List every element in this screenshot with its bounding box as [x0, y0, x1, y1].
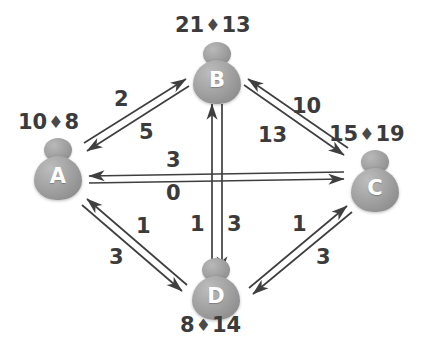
- edge-b-to-a: [87, 86, 189, 151]
- edge-label-cd-upper: 1: [292, 212, 307, 236]
- node-d-label: D: [190, 284, 242, 308]
- edge-label-bc-upper: 10: [292, 94, 321, 118]
- node-c-value-left: 15: [329, 122, 358, 146]
- node-b-separator-icon: ♦: [204, 15, 221, 35]
- edge-label-bc-lower: 13: [258, 123, 287, 147]
- node-c-value-right: 19: [375, 122, 404, 146]
- node-b-values: 21♦13: [175, 13, 251, 37]
- edge-a-to-b: [84, 79, 186, 143]
- node-a-separator-icon: ♦: [47, 112, 64, 132]
- node-a-values: 10♦8: [18, 110, 79, 134]
- node-c-values: 15♦19: [329, 122, 405, 146]
- node-a-value-right: 8: [64, 110, 79, 134]
- edge-a-to-d: [82, 205, 182, 291]
- edge-d-to-a: [87, 199, 187, 285]
- node-b-label: B: [191, 68, 243, 92]
- edge-a-to-c: [89, 179, 344, 183]
- node-d[interactable]: D: [190, 258, 242, 320]
- node-b-value-right: 13: [221, 13, 250, 37]
- edge-c-to-a: [89, 172, 344, 176]
- node-a[interactable]: A: [32, 138, 84, 200]
- node-b-value-left: 21: [175, 13, 204, 37]
- edge-label-cd-lower: 3: [316, 245, 331, 269]
- node-c[interactable]: C: [349, 150, 401, 212]
- edge-label-ab-upper: 2: [114, 87, 129, 111]
- edge-label-bd-right: 3: [227, 212, 242, 236]
- node-c-separator-icon: ♦: [358, 124, 375, 144]
- node-a-label: A: [32, 164, 84, 188]
- node-d-separator-icon: ♦: [195, 315, 212, 335]
- node-a-value-left: 10: [18, 110, 47, 134]
- node-d-values: 8♦14: [180, 313, 241, 337]
- edge-label-bd-left: 1: [190, 212, 205, 236]
- edge-label-ac-upper: 3: [166, 148, 181, 172]
- node-d-value-right: 14: [212, 313, 241, 337]
- edge-label-ad-upper: 1: [136, 214, 151, 238]
- edge-label-ad-lower: 3: [109, 245, 124, 269]
- edge-label-ab-lower: 5: [139, 120, 154, 144]
- node-d-value-left: 8: [180, 313, 195, 337]
- edge-label-ac-lower: 0: [166, 181, 181, 205]
- node-b[interactable]: B: [191, 42, 243, 104]
- node-c-label: C: [349, 176, 401, 200]
- graph-diagram: 10♦8 A 21♦13 B 15♦19 C D 8♦14 2 5 10 13 …: [0, 0, 429, 342]
